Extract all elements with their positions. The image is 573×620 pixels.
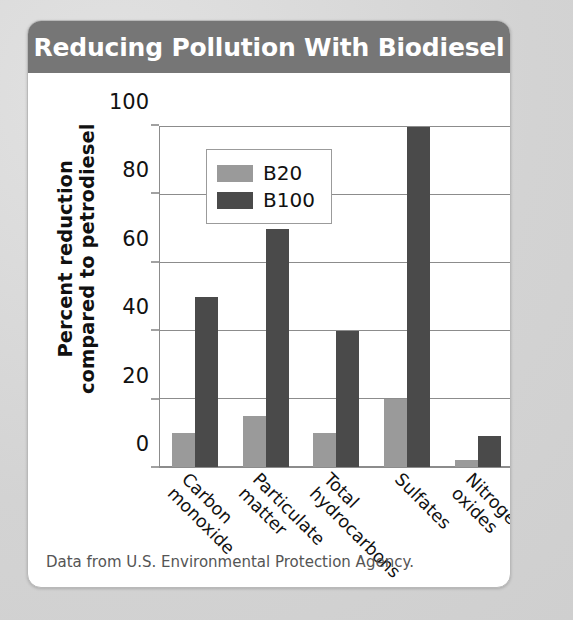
page-title: Reducing Pollution With Biodiesel <box>34 33 505 62</box>
y-tick-mark <box>151 261 159 262</box>
x-tick-label: Sulfates <box>390 469 454 533</box>
legend-swatch-b20 <box>217 165 253 182</box>
chart-card: Reducing Pollution With Biodiesel Percen… <box>27 20 511 588</box>
y-tick-label: 60 <box>122 227 149 251</box>
y-tick-label: 80 <box>122 158 149 182</box>
legend-swatch-b100 <box>217 192 253 209</box>
chart-body: Percent reduction compared to petrodiese… <box>28 73 510 588</box>
y-tick-label: 0 <box>136 432 149 456</box>
legend-item: B20 <box>217 161 315 185</box>
y-tick-label: 20 <box>122 364 149 388</box>
y-tick-mark <box>151 125 159 126</box>
y-tick-mark <box>151 398 159 399</box>
legend-label: B100 <box>263 188 315 212</box>
x-tick-label: Carbon monoxide <box>163 469 253 559</box>
x-tick-label: Particulate matter <box>234 469 329 564</box>
y-tick-label: 100 <box>109 90 149 114</box>
y-tick-mark <box>151 467 159 468</box>
x-tick-label: Nitrogen oxides <box>447 469 511 551</box>
y-axis-title: Percent reduction compared to petrodiese… <box>55 94 99 424</box>
card-header: Reducing Pollution With Biodiesel <box>28 21 510 73</box>
source-note: Data from U.S. Environmental Protection … <box>46 553 414 571</box>
y-tick-mark <box>151 193 159 194</box>
legend-item: B100 <box>217 188 315 212</box>
chart-legend: B20B100 <box>206 149 332 224</box>
y-tick-mark <box>151 330 159 331</box>
y-tick-label: 40 <box>122 295 149 319</box>
legend-label: B20 <box>263 161 302 185</box>
